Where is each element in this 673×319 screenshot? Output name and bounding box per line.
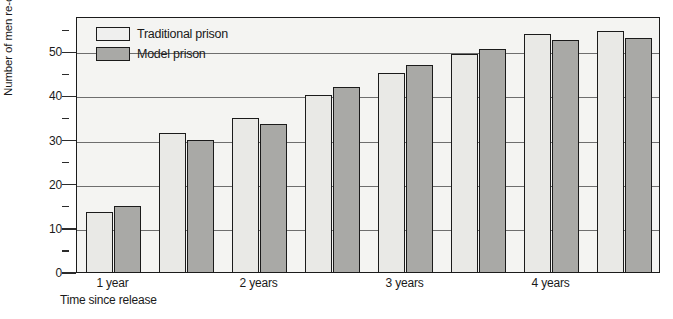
y-tick-mark-minor xyxy=(62,162,69,163)
y-tick-mark-minor xyxy=(62,206,69,207)
y-tick-label: 20 xyxy=(49,179,62,191)
y-tick-mark-minor xyxy=(62,250,69,251)
bar-traditional xyxy=(597,31,625,272)
legend-label-model: Model prison xyxy=(137,47,206,61)
bar-model xyxy=(406,65,434,272)
legend-swatch-model-icon xyxy=(96,47,130,61)
y-tick-mark-major xyxy=(62,228,76,229)
bar-chart-figure: Number of men re-convicted 01020304050 1… xyxy=(0,0,673,319)
y-axis-title: Number of men re-convicted xyxy=(2,0,20,96)
bar-model xyxy=(187,140,215,272)
y-tick-mark-major xyxy=(62,52,76,53)
bar-model xyxy=(114,206,142,272)
x-axis-tick-labels: 1 year2 years3 years4 years xyxy=(76,276,660,294)
bar-traditional xyxy=(378,73,406,272)
chart-legend: Traditional prison Model prison xyxy=(96,25,246,65)
bar-traditional xyxy=(159,133,187,272)
y-tick-label: 40 xyxy=(49,90,62,102)
y-tick-label: 30 xyxy=(49,135,62,147)
y-tick-label: 50 xyxy=(49,46,62,58)
y-tick-mark-minor xyxy=(62,30,69,31)
bar-model xyxy=(552,40,580,272)
bar-traditional xyxy=(232,118,260,272)
y-axis-tick-labels: 01020304050 xyxy=(34,0,62,319)
bar-model xyxy=(333,87,361,272)
y-tick-label: 10 xyxy=(49,223,62,235)
y-tick-mark-major xyxy=(62,184,76,185)
y-tick-mark-major xyxy=(62,272,76,273)
x-tick-label: 3 years xyxy=(386,276,424,290)
bar-model xyxy=(625,38,653,272)
y-tick-mark-major xyxy=(62,140,76,141)
y-tick-mark-minor xyxy=(62,118,69,119)
y-tick-mark-minor xyxy=(62,74,69,75)
bar-model xyxy=(479,49,507,272)
x-tick-label: 4 years xyxy=(532,276,570,290)
bar-traditional xyxy=(86,212,114,272)
legend-label-traditional: Traditional prison xyxy=(137,27,228,41)
bar-traditional xyxy=(524,34,552,272)
x-tick-label: 2 years xyxy=(240,276,278,290)
y-tick-mark-major xyxy=(62,96,76,97)
bar-traditional xyxy=(305,95,333,272)
x-axis-title: Time since release xyxy=(60,293,157,307)
bar-model xyxy=(260,124,288,272)
legend-item-model: Model prison xyxy=(96,45,246,63)
legend-item-traditional: Traditional prison xyxy=(96,25,246,43)
legend-swatch-traditional-icon xyxy=(96,27,130,41)
x-tick-label: 1 year xyxy=(96,276,128,290)
bar-traditional xyxy=(451,54,479,272)
